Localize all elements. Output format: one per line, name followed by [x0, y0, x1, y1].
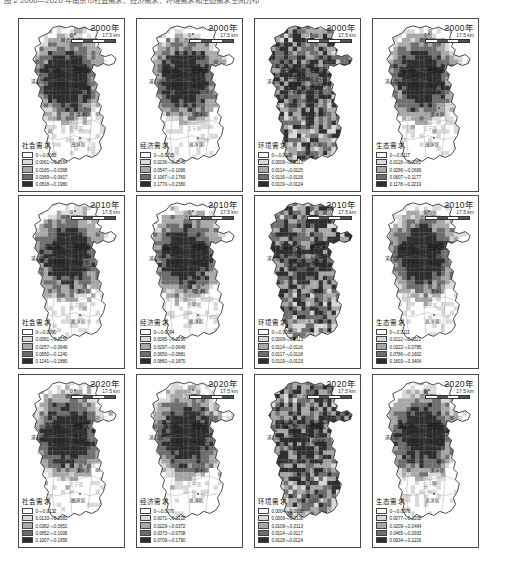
- legend-swatch: [22, 336, 33, 342]
- legend-swatch: [376, 508, 387, 514]
- legend: 环境需求0～0.00080.0009～0.01130.0114～0.01160.…: [258, 317, 303, 365]
- legend-row: 0.0071～0.0228: [140, 514, 185, 521]
- legend-swatch: [258, 343, 269, 349]
- district-label: 雨花台区: [169, 444, 188, 450]
- legend-class-label: 0.0652～0.1006: [36, 530, 68, 536]
- legend-swatch: [22, 537, 33, 543]
- legend-swatch: [376, 181, 387, 187]
- scale-end-label: 17.5 km: [338, 32, 356, 38]
- legend-swatch: [258, 358, 269, 364]
- scale-bar: 017.5 km: [70, 209, 120, 221]
- district-label: 溧水区: [430, 467, 444, 473]
- scale-start-label: 0: [188, 388, 191, 394]
- district-label: 雨花台区: [51, 265, 70, 271]
- district-label: 北: [391, 269, 396, 275]
- legend-title: 环境需求: [258, 140, 303, 150]
- district-label: 雨花台区: [405, 88, 424, 94]
- scale-start-label: 0: [424, 32, 427, 38]
- legend-swatch: [22, 351, 33, 357]
- district-label: 北: [37, 448, 42, 454]
- scale-end-label: 17.5 km: [456, 388, 474, 394]
- map-panel-2020-环境需求: 六合区南京市栖霞区浦口区鼓楼区玄武区建邺区秦淮区雨花台区江宁区江北溧水区江宁区高…: [254, 374, 361, 548]
- scale-bar: 017.5 km: [306, 32, 356, 44]
- district-label: 江宁区: [423, 125, 437, 131]
- district-label: 江宁区: [313, 88, 327, 94]
- scale-bar: 017.5 km: [306, 388, 356, 400]
- district-label: 北: [273, 92, 278, 98]
- district-label: 浦口区: [31, 78, 45, 84]
- legend: 社会需求0～0.01320.0133～0.03810.0382～0.06510.…: [22, 496, 67, 544]
- district-label: 江: [277, 61, 282, 67]
- district-label: 江: [41, 61, 46, 67]
- legend-row: 0.0077～0.0208: [376, 514, 421, 521]
- district-label: 浦口区: [31, 255, 45, 261]
- legend: 环境需求0～0.00080.0009～0.01130.0114～0.01150.…: [258, 140, 303, 188]
- district-label: 江宁区: [313, 265, 327, 271]
- scale-start-label: 0: [70, 209, 73, 215]
- legend-swatch: [22, 530, 33, 536]
- scale-bar-graphic: [71, 395, 116, 399]
- legend-class-label: 0.0114～0.0115: [272, 167, 303, 173]
- legend-class-label: 0.0373～0.0708: [154, 530, 186, 536]
- map-panel-2010-生态需求: 六合区南京市栖霞区浦口区鼓楼区玄武区建邺区秦淮区雨花台区江宁区江北溧水区江宁区高…: [372, 195, 479, 369]
- district-label: 江: [277, 417, 282, 423]
- legend: 生态需求0～0.01110.0112～0.03210.0322～0.07850.…: [376, 317, 421, 365]
- legend-class-label: 0～0.0111: [390, 329, 410, 335]
- scale-end-label: 17.5 km: [102, 388, 120, 394]
- legend-title: 经济需求: [140, 496, 185, 506]
- legend-swatch: [140, 343, 151, 349]
- legend-class-label: 0.0009～0.0113: [272, 159, 303, 165]
- district-label: 北: [273, 269, 278, 275]
- scale-bar: 017.5 km: [424, 388, 474, 400]
- district-label: 江宁区: [69, 125, 83, 131]
- legend-row: 0.0882～0.1870: [140, 358, 185, 365]
- district-label: 浦口区: [31, 434, 45, 440]
- legend-swatch: [258, 336, 269, 342]
- district-label: 江: [395, 61, 400, 67]
- legend-class-label: 0.0116～0.0118: [272, 174, 303, 180]
- map-panel-grid: 六合区南京市栖霞区浦口区鼓楼区玄武区建邺区秦淮区雨花台区江宁区江北溧水区江宁区高…: [0, 14, 513, 566]
- legend-row: 0.1007～0.1955: [22, 537, 67, 544]
- legend-swatch: [22, 329, 33, 335]
- district-label: 溧水区: [76, 288, 90, 294]
- legend-swatch: [22, 508, 33, 514]
- legend-row: 0～0.0235: [140, 151, 185, 158]
- legend: 经济需求0～0.00700.0071～0.02280.0229～0.03720.…: [140, 496, 185, 544]
- legend-row: 0～0.0094: [140, 328, 185, 335]
- legend-class-label: 0.0119～0.0124: [272, 181, 303, 187]
- legend-row: 0.0133～0.0381: [22, 514, 67, 521]
- district-label: 江宁区: [77, 88, 91, 94]
- legend-row: 0.0114～0.0116: [258, 343, 303, 350]
- district-label: 浦口区: [149, 434, 163, 440]
- legend-row: 0～0.0008: [258, 151, 303, 158]
- legend-class-label: 0.0119～0.0123: [272, 358, 303, 364]
- legend-row: 0.1067～0.1769: [140, 173, 185, 180]
- district-label: 北: [155, 92, 160, 98]
- legend-class-label: 0.0133～0.0381: [36, 515, 68, 521]
- legend-row: 0.0117～0.0118: [258, 350, 303, 357]
- district-label: 北: [155, 269, 160, 275]
- scale-end-label: 17.5 km: [456, 32, 474, 38]
- legend-class-label: 0.0650～0.0881: [154, 351, 186, 357]
- legend-swatch: [22, 515, 33, 521]
- scale-bar-graphic: [71, 216, 116, 220]
- legend-row: 0～0.0111: [376, 328, 421, 335]
- scale-bar-labels: 017.5 km: [70, 388, 120, 395]
- legend-row: 0.0009～0.0108: [258, 514, 303, 521]
- legend-row: 0.0095～0.0296: [140, 335, 185, 342]
- district-label: 高淳区: [71, 497, 85, 503]
- legend-row: 0.1241～0.1880: [22, 358, 67, 365]
- legend-swatch: [258, 515, 269, 521]
- legend-class-label: 0.0465～0.0933: [390, 530, 422, 536]
- legend-title: 社会需求: [22, 496, 67, 506]
- legend-row: 0～0.0070: [140, 507, 185, 514]
- scale-bar-graphic: [307, 395, 352, 399]
- scale-bar-labels: 017.5 km: [306, 388, 356, 395]
- legend-swatch: [258, 530, 269, 536]
- district-label: 江: [277, 238, 282, 244]
- district-label: 溧水区: [194, 288, 208, 294]
- legend-class-label: 0.0382～0.0651: [36, 523, 68, 529]
- legend-class-label: 0.0165～0.0368: [36, 167, 68, 173]
- district-label: 雨花台区: [405, 265, 424, 271]
- map-panel-2010-环境需求: 六合区南京市栖霞区浦口区鼓楼区玄武区建邺区秦淮区雨花台区江宁区江北溧水区江宁区高…: [254, 195, 361, 369]
